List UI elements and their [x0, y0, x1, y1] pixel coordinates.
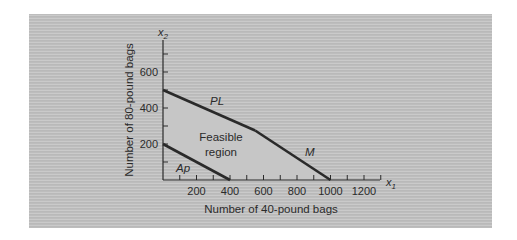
y-axis-title: Number of 80-pound bags [123, 43, 135, 177]
x-tick-label: 400 [221, 185, 239, 197]
y-tick-label: 200 [140, 138, 158, 150]
region-label-line1: Feasible [199, 131, 242, 143]
annotation-pl: PL [210, 95, 224, 107]
x-tick-label: 200 [187, 185, 205, 197]
x-tick-label: 1000 [318, 185, 342, 197]
x-tick-label: 1200 [352, 185, 376, 197]
annotation-m: M [305, 146, 315, 158]
feasible-region-chart: 20040060080010001200200400600x1x2Number … [0, 0, 517, 240]
x-axis-title: Number of 40-pound bags [204, 203, 338, 215]
x-axis-variable: x1 [385, 176, 396, 191]
y-tick-label: 400 [140, 102, 158, 114]
region-label-line2: region [205, 146, 237, 158]
x-tick-label: 800 [288, 185, 306, 197]
annotation-ap: Ap [175, 162, 191, 174]
y-tick-label: 600 [140, 66, 158, 78]
x-tick-label: 600 [254, 185, 272, 197]
y-axis-variable: x2 [157, 26, 169, 41]
